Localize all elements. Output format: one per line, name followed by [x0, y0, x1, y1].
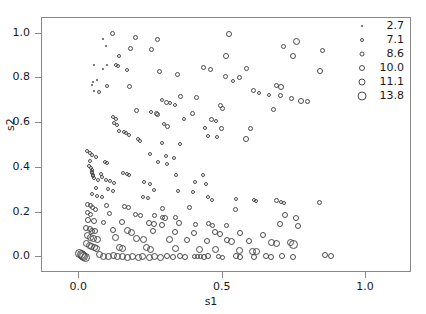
data-point — [205, 253, 211, 259]
data-point — [290, 53, 296, 59]
data-point — [115, 123, 119, 127]
data-point — [210, 223, 215, 228]
data-point — [257, 91, 261, 95]
data-point — [91, 84, 93, 86]
data-point — [201, 173, 205, 177]
data-point — [148, 152, 152, 156]
data-point — [95, 194, 99, 198]
legend-marker-box — [352, 61, 372, 75]
data-point — [172, 156, 176, 160]
data-point — [278, 93, 283, 98]
legend-circle-icon — [359, 65, 365, 71]
data-point — [237, 75, 242, 80]
data-point — [164, 154, 168, 158]
data-point — [226, 31, 232, 37]
x-tick-mark — [365, 272, 366, 278]
data-point — [155, 112, 160, 117]
data-point — [157, 254, 164, 261]
data-point — [244, 66, 249, 71]
legend-marker-box — [352, 33, 372, 47]
data-point — [220, 106, 225, 111]
data-point — [155, 37, 160, 42]
data-point — [165, 162, 169, 166]
legend-item: 2.7 — [352, 19, 408, 33]
y-tick-label: 0.0 — [0, 250, 30, 261]
legend-label: 13.8 — [372, 89, 404, 103]
data-point — [224, 223, 229, 228]
data-point — [184, 237, 190, 243]
data-point — [112, 181, 116, 185]
legend-circle-icon — [358, 92, 367, 101]
data-point — [293, 215, 299, 221]
data-point — [97, 90, 101, 94]
legend-marker-box — [352, 19, 372, 33]
data-point — [93, 207, 98, 212]
data-point — [193, 180, 197, 184]
data-point — [206, 134, 210, 138]
data-point — [187, 205, 192, 210]
legend-circle-icon — [360, 38, 364, 42]
data-point — [125, 68, 129, 72]
data-point — [210, 198, 214, 202]
data-point — [165, 124, 170, 129]
data-point — [106, 187, 110, 191]
data-point — [201, 65, 206, 70]
data-point — [162, 215, 168, 221]
data-point — [220, 255, 225, 260]
data-point — [142, 180, 146, 184]
legend-item: 10.0 — [352, 61, 408, 75]
data-point — [90, 192, 94, 196]
data-point — [328, 253, 334, 259]
data-point — [282, 212, 288, 218]
legend-item: 7.1 — [352, 33, 408, 47]
data-point — [156, 160, 160, 164]
data-point — [204, 182, 208, 186]
data-point — [100, 175, 104, 179]
data-point — [178, 142, 182, 146]
legend-item: 11.1 — [352, 75, 408, 89]
data-point — [119, 219, 125, 225]
data-point — [281, 44, 286, 49]
data-point — [133, 35, 138, 40]
data-point — [248, 126, 253, 131]
data-point — [176, 189, 180, 193]
x-axis-title: s1 — [186, 295, 236, 308]
x-tick-label: 0.5 — [197, 281, 247, 292]
data-point — [94, 236, 101, 243]
data-point — [208, 67, 213, 72]
data-point — [173, 215, 178, 220]
data-point — [160, 98, 164, 102]
legend-label: 8.6 — [372, 47, 404, 61]
x-tick-mark — [222, 272, 223, 278]
data-point — [94, 186, 98, 190]
data-point — [194, 95, 199, 100]
data-point — [105, 161, 109, 165]
data-point — [173, 103, 177, 107]
legend-circle-icon — [361, 25, 363, 27]
data-point — [126, 205, 131, 210]
data-point — [114, 117, 118, 121]
data-point — [85, 217, 91, 223]
y-axis-title: s2 — [4, 118, 17, 131]
data-point — [160, 141, 164, 145]
legend-marker-box — [352, 75, 372, 89]
data-point — [146, 196, 150, 200]
data-point — [290, 254, 296, 260]
data-point — [94, 155, 98, 159]
y-tick-label: 0.2 — [0, 206, 30, 217]
legend-label: 10.0 — [372, 61, 404, 75]
data-point — [182, 117, 186, 121]
data-point — [91, 218, 97, 224]
data-point — [157, 69, 162, 74]
data-point — [214, 119, 218, 123]
legend-circle-icon — [359, 79, 366, 86]
legend-label: 2.7 — [372, 19, 404, 33]
data-point — [92, 81, 94, 83]
legend-circle-icon — [360, 52, 365, 57]
data-point — [251, 88, 256, 93]
data-point — [178, 94, 183, 99]
data-point — [107, 211, 112, 216]
data-point — [271, 107, 276, 112]
data-point — [172, 229, 178, 235]
data-point — [237, 230, 243, 236]
